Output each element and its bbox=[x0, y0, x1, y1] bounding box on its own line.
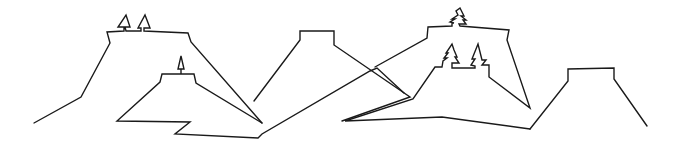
left-mesa-outline bbox=[34, 15, 262, 123]
far-right-mesa-outline bbox=[530, 68, 647, 129]
mesa-landscape-drawing bbox=[0, 0, 680, 146]
small-front-mesa-outline bbox=[117, 56, 404, 138]
